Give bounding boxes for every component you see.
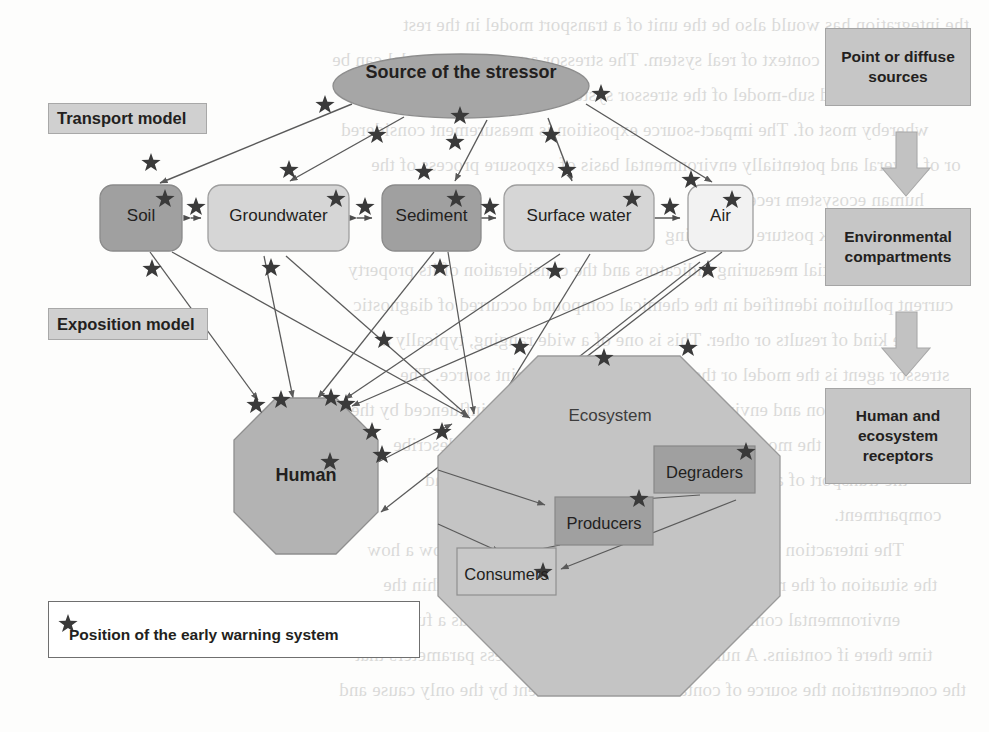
compartment-air[interactable] [688,185,753,251]
source-of-stressor-node[interactable] [333,54,589,118]
receptor-human[interactable] [234,398,378,554]
flow-arrow-2 [882,312,930,376]
edge-source-groundwater [290,117,404,181]
compartment-sediment[interactable] [382,185,481,251]
legend-label: Position of the early warning system [69,626,339,644]
ecosystem-member-producers[interactable] [555,497,653,545]
compartment-soil[interactable] [100,185,182,251]
edge-soil-ecosystem [172,252,470,418]
edge-sediment-ecosystem [448,252,474,414]
edge-source-sediment [455,120,487,181]
legend-box: Position of the early warning system [48,601,420,658]
flow-box-environmental-compartments[interactable]: Environmental compartments [825,208,971,286]
ecosystem-member-degraders[interactable] [654,446,755,493]
flow-arrow-1 [882,132,930,196]
edge-groundwater-human [264,256,293,398]
edge-sediment-human [318,252,434,398]
compartment-groundwater[interactable] [208,185,349,251]
flow-box-point-or-diffuse-sources[interactable]: Point or diffuse sources [825,28,971,106]
transport-model-label[interactable]: Transport model [48,103,207,134]
flow-box-human-and-ecosystem-receptors[interactable]: Human and ecosystem receptors [825,388,971,484]
edge-groundwater-ecosystem [286,256,468,416]
figure-page: the integration has would also be the un… [0,0,989,732]
exposition-model-label[interactable]: Exposition model [48,308,208,340]
edge-source-air [586,104,712,182]
